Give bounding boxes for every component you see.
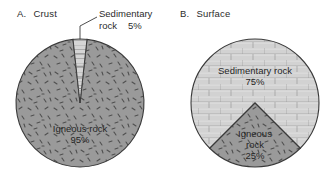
pie-a-igneous-label-line1: Igneous rock [53, 123, 108, 134]
pie-b-igneous-label-line2: rock [246, 139, 264, 150]
pie-chart-b: Sedimentary rock 75% Igneous rock 25% [191, 39, 319, 167]
pie-b-sedimentary-label-line2: 75% [245, 76, 265, 87]
pie-charts-canvas: Igneous rock 95% Sedimentary rock 75% Ig… [0, 0, 332, 186]
pie-b-igneous-label-line1: Igneous [238, 128, 272, 139]
pie-b-igneous-label-line3: 25% [245, 150, 265, 161]
figure-two-pie-charts: A.Crust Sedimentary rock5% B.Surface [0, 0, 332, 186]
pie-chart-a: Igneous rock 95% [16, 17, 144, 167]
sedimentary-leader-line-a [80, 17, 97, 40]
pie-a-igneous-label-line2: 95% [70, 134, 90, 145]
pie-b-sedimentary-label-line1: Sedimentary rock [218, 65, 292, 76]
